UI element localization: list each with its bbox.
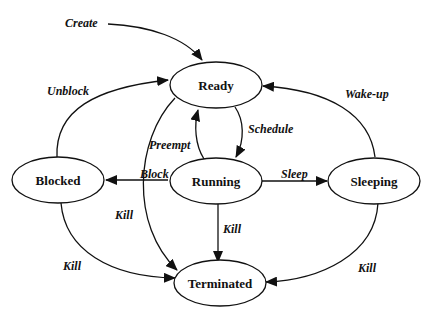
node-sleeping-label: Sleeping (351, 174, 398, 189)
edge-schedule (235, 107, 242, 157)
node-ready[interactable]: Ready (170, 62, 262, 108)
label-wakeup: Wake-up (345, 87, 389, 101)
process-state-diagram: Ready Running Blocked Sleeping Terminate… (0, 0, 432, 317)
edge-preempt (196, 110, 204, 159)
label-kill-blocked: Kill (62, 259, 82, 273)
label-sleep: Sleep (281, 167, 308, 181)
edge-create (108, 24, 202, 60)
label-kill-ready: Kill (114, 208, 134, 222)
node-running[interactable]: Running (170, 158, 262, 204)
label-preempt: Preempt (149, 138, 191, 152)
label-block: Block (139, 167, 169, 181)
node-ready-label: Ready (198, 78, 234, 93)
label-kill-sleeping: Kill (357, 261, 377, 275)
label-kill-running: Kill (222, 222, 242, 236)
label-schedule: Schedule (248, 122, 294, 136)
node-blocked-label: Blocked (36, 173, 82, 188)
node-terminated-label: Terminated (188, 276, 253, 291)
node-blocked[interactable]: Blocked (12, 157, 104, 203)
node-running-label: Running (192, 174, 241, 189)
label-create: Create (65, 16, 98, 30)
node-terminated[interactable]: Terminated (174, 260, 266, 306)
node-sleeping[interactable]: Sleeping (328, 158, 420, 204)
label-unblock: Unblock (47, 84, 89, 98)
